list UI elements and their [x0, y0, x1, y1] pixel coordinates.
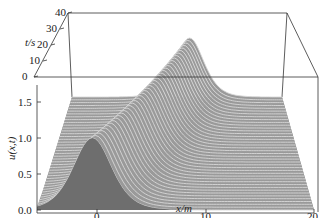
t-tick-40: 40	[55, 7, 66, 18]
t-tick-20: 20	[37, 39, 48, 50]
u-tick-1.0: 1.0	[18, 133, 32, 144]
t-tick-30: 30	[46, 23, 57, 34]
x-tick-0: 0	[94, 211, 100, 218]
t-tick-10: 10	[29, 55, 40, 66]
wave-surface	[37, 38, 314, 210]
u-axis-label: u(x,t)	[6, 136, 17, 160]
u-tick-0.0: 0.0	[18, 205, 32, 216]
x-axis-label: x/m	[176, 203, 192, 214]
u-tick-1.5: 1.5	[18, 97, 32, 108]
x-tick-20: 20	[307, 211, 318, 218]
t-tick-0: 0	[22, 71, 28, 82]
u-tick-0.5: 0.5	[18, 169, 32, 180]
x-tick-10: 10	[200, 211, 211, 218]
t-axis-label: t/s	[25, 37, 35, 48]
